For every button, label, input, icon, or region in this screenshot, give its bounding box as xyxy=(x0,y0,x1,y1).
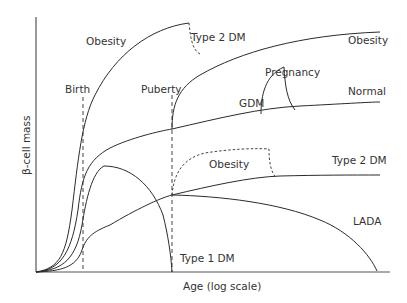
label-type1dm: Type 1 DM xyxy=(179,252,235,264)
curve-type2dm-adult xyxy=(172,175,380,195)
label-lada: LADA xyxy=(353,215,382,227)
beta-cell-mass-diagram: Obesity Type 2 DM Obesity Pregnancy GDM … xyxy=(0,0,407,303)
label-obesity-middle: Obesity xyxy=(209,158,249,170)
curve-obesity-early xyxy=(36,23,189,272)
label-obesity-upper-left: Obesity xyxy=(86,35,126,47)
label-type2dm-upper: Type 2 DM xyxy=(190,31,246,43)
x-axis-label: Age (log scale) xyxy=(183,280,261,292)
label-birth: Birth xyxy=(65,83,90,95)
label-pregnancy: Pregnancy xyxy=(265,66,320,78)
label-gdm: GDM xyxy=(239,97,264,109)
label-obesity-upper-right: Obesity xyxy=(348,34,388,46)
label-type2dm-middle: Type 2 DM xyxy=(331,154,387,166)
curve-obesity-dashed-middle xyxy=(172,149,276,195)
curve-obesity-adult xyxy=(172,32,380,129)
curve-type1dm xyxy=(36,166,172,272)
label-puberty: Puberty xyxy=(141,83,182,95)
label-normal: Normal xyxy=(348,85,386,97)
y-axis-label: β-cell mass xyxy=(20,116,32,176)
